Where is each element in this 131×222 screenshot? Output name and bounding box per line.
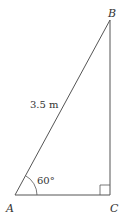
- angle-label-a: 60°: [37, 175, 55, 186]
- triangle-diagram: B A C 3.5 m 60°: [0, 0, 131, 222]
- right-angle-marker: [100, 185, 110, 195]
- vertex-label-c: C: [110, 202, 119, 215]
- vertex-label-a: A: [5, 202, 14, 215]
- angle-arc-a: [26, 176, 38, 195]
- vertex-label-b: B: [107, 7, 116, 20]
- hypotenuse-length-label: 3.5 m: [30, 99, 59, 110]
